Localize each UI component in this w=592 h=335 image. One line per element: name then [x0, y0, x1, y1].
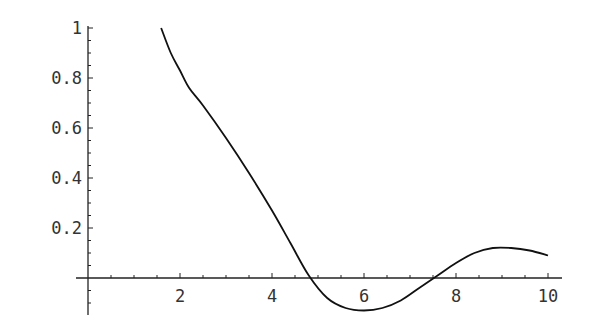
y-tick-label: 0.4 — [51, 168, 82, 188]
x-tick-label: 2 — [175, 286, 185, 306]
y-tick-label: 0.2 — [51, 218, 82, 238]
x-tick-label: 4 — [267, 286, 277, 306]
x-tick-label: 10 — [538, 286, 558, 306]
axes — [76, 26, 562, 315]
tick-labels: 2468100.20.40.60.81 — [51, 18, 558, 306]
y-tick-label: 1 — [72, 18, 82, 38]
line-chart: 2468100.20.40.60.81 — [0, 0, 592, 335]
x-tick-label: 8 — [451, 286, 461, 306]
y-tick-label: 0.6 — [51, 118, 82, 138]
x-tick-label: 6 — [359, 286, 369, 306]
data-line — [161, 28, 548, 311]
y-tick-label: 0.8 — [51, 68, 82, 88]
